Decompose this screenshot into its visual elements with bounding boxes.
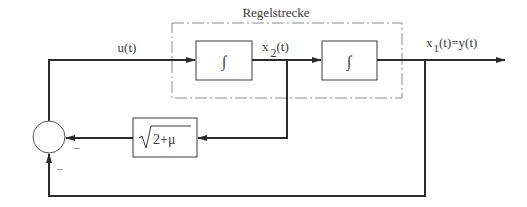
output-signal-label: x1(t)=y(t): [426, 35, 477, 54]
input-signal-line: [49, 60, 195, 121]
minus-sign-output: –: [56, 162, 63, 174]
summing-junction: [33, 121, 65, 153]
feedback-gain-label: 2+μ: [153, 132, 175, 147]
block-diagram: Regelstrecke u(t) ∫ x2(t) ∫ x1(t)=y(t) 2…: [0, 0, 527, 207]
plant-label: Regelstrecke: [242, 5, 309, 20]
input-signal-label: u(t): [118, 40, 137, 55]
intermediate-signal-label: x2(t): [262, 39, 289, 60]
minus-sign-gain: –: [73, 141, 80, 153]
